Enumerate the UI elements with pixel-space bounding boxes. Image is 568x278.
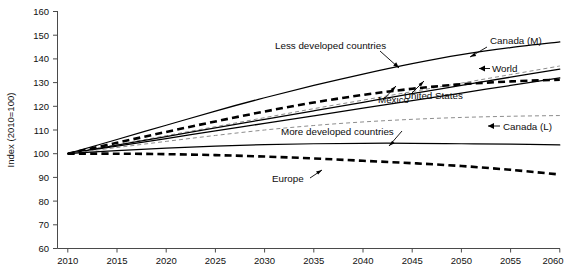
annotation-labels: Less developed countries Canada (M) Worl… — [272, 35, 552, 184]
y-tick-label: 120 — [33, 101, 49, 112]
annotation-canada-m: Canada (M) — [490, 35, 542, 46]
x-tick-label: 2050 — [451, 255, 472, 266]
y-axis: 160 150 140 130 120 110 100 90 80 70 60 … — [5, 6, 58, 254]
x-tick-label: 2020 — [156, 255, 177, 266]
y-axis-ticks — [53, 12, 58, 249]
x-tick-label: 2015 — [106, 255, 127, 266]
series-line-world — [68, 69, 560, 154]
x-tick-label: 2025 — [205, 255, 226, 266]
y-tick-label: 90 — [38, 172, 49, 183]
y-tick-label: 140 — [33, 53, 49, 64]
annotation-united-states: United States — [404, 90, 463, 101]
y-tick-label: 130 — [33, 77, 49, 88]
x-tick-label: 2040 — [352, 255, 373, 266]
y-tick-label: 60 — [38, 243, 49, 254]
y-tick-label: 160 — [33, 6, 49, 17]
y-tick-label: 110 — [34, 125, 49, 136]
annotation-more-developed-countries: More developed countries — [281, 126, 394, 137]
series-line-united-states — [68, 78, 560, 154]
chart-canvas: 160 150 140 130 120 110 100 90 80 70 60 … — [0, 0, 568, 278]
x-tick-label: 2035 — [303, 255, 324, 266]
y-tick-label: 70 — [38, 219, 49, 230]
x-tick-label: 2045 — [402, 255, 423, 266]
annotation-world: World — [492, 63, 517, 74]
x-tick-label: 2060 — [542, 255, 563, 266]
y-axis-title: Index (2010=100) — [5, 93, 16, 168]
x-tick-label: 2055 — [500, 255, 521, 266]
y-tick-label: 80 — [38, 196, 49, 207]
x-tick-label: 2010 — [57, 255, 78, 266]
series-line-europe — [68, 154, 560, 175]
annotation-canada-l: Canada (L) — [503, 121, 552, 132]
annotation-less-developed-countries: Less developed countries — [275, 40, 386, 51]
y-tick-label: 100 — [33, 148, 49, 159]
annotation-europe: Europe — [272, 173, 304, 184]
y-tick-label: 150 — [33, 30, 49, 41]
x-axis-ticks — [68, 249, 560, 253]
series-layer — [68, 42, 560, 175]
x-tick-labels: 2010 2015 2020 2025 2030 2035 2040 2045 … — [57, 255, 563, 266]
x-axis: 2010 2015 2020 2025 2030 2035 2040 2045 … — [57, 249, 563, 267]
population-index-projection-chart: 160 150 140 130 120 110 100 90 80 70 60 … — [0, 0, 568, 278]
series-line-more-developed-countries — [68, 143, 560, 153]
x-tick-label: 2030 — [254, 255, 275, 266]
y-tick-labels: 160 150 140 130 120 110 100 90 80 70 60 — [33, 6, 49, 254]
